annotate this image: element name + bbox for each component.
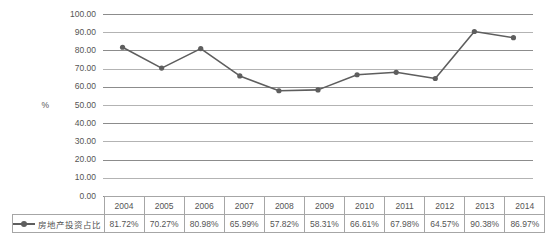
data-point-2007[interactable] [237, 73, 242, 78]
y-tick-label-90: 90.00 [75, 28, 96, 37]
plot-area [103, 14, 533, 196]
y-tick-label-40: 40.00 [75, 119, 96, 128]
data-point-2008[interactable] [276, 88, 281, 93]
table-value-2010: 66.61% [344, 215, 384, 233]
table-header-year-2008: 2008 [264, 197, 304, 215]
table-value-2008: 57.82% [264, 215, 304, 233]
table-header-year-2005: 2005 [144, 197, 184, 215]
data-point-2010[interactable] [354, 72, 359, 77]
table-value-2007: 65.99% [224, 215, 264, 233]
y-tick-label-20: 20.00 [75, 155, 96, 164]
data-point-2014[interactable] [511, 35, 516, 40]
series-line-real-estate-investment-share [103, 14, 533, 196]
y-tick-label-50: 50.00 [75, 101, 96, 110]
data-table-container: 2004200520062007200820092010201120122013… [12, 196, 533, 231]
legend-line-marker-icon [13, 219, 35, 228]
y-tick-label-70: 70.00 [75, 64, 96, 73]
y-tick-label-30: 30.00 [75, 137, 96, 146]
table-value-2011: 67.98% [385, 215, 425, 233]
table-value-2012: 64.57% [425, 215, 465, 233]
table-value-2013: 90.38% [465, 215, 505, 233]
data-point-2013[interactable] [472, 29, 477, 34]
table-header-year-2013: 2013 [465, 197, 505, 215]
table-header-year-2006: 2006 [184, 197, 224, 215]
table-header-year-2010: 2010 [344, 197, 384, 215]
table-value-2014: 86.97% [505, 215, 545, 233]
y-tick-label-10: 10.00 [75, 173, 96, 182]
y-axis: 100.0090.0080.0070.0060.0050.0040.0030.0… [0, 0, 101, 200]
data-point-2004[interactable] [120, 45, 125, 50]
data-point-2011[interactable] [394, 70, 399, 75]
data-point-2005[interactable] [159, 66, 164, 71]
table-row-values: 房地产投资占比 81.72%70.27%80.98%65.99%57.82%58… [13, 215, 545, 233]
table-value-2004: 81.72% [104, 215, 144, 233]
y-tick-label-80: 80.00 [75, 46, 96, 55]
legend-cell-real-estate-investment-share[interactable]: 房地产投资占比 [13, 215, 105, 233]
table-value-2009: 58.31% [304, 215, 344, 233]
table-header-year-2011: 2011 [385, 197, 425, 215]
table-header-year-2004: 2004 [104, 197, 144, 215]
series-polyline [123, 32, 514, 91]
data-point-2012[interactable] [433, 76, 438, 81]
data-point-2009[interactable] [315, 87, 320, 92]
y-tick-label-60: 60.00 [75, 82, 96, 91]
legend-label: 房地产投资占比 [38, 218, 101, 230]
table-header-year-2009: 2009 [304, 197, 344, 215]
table-header-year-2007: 2007 [224, 197, 264, 215]
data-table: 2004200520062007200820092010201120122013… [12, 196, 545, 233]
table-value-2006: 80.98% [184, 215, 224, 233]
table-corner-blank [13, 197, 105, 215]
table-value-2005: 70.27% [144, 215, 184, 233]
data-point-2006[interactable] [198, 46, 203, 51]
table-row-years: 2004200520062007200820092010201120122013… [13, 197, 545, 215]
table-header-year-2014: 2014 [505, 197, 545, 215]
line-chart-with-data-table: 100.0090.0080.0070.0060.0050.0040.0030.0… [0, 0, 545, 233]
table-header-year-2012: 2012 [425, 197, 465, 215]
y-axis-title: % [41, 101, 49, 110]
y-tick-label-100: 100.00 [70, 10, 96, 19]
